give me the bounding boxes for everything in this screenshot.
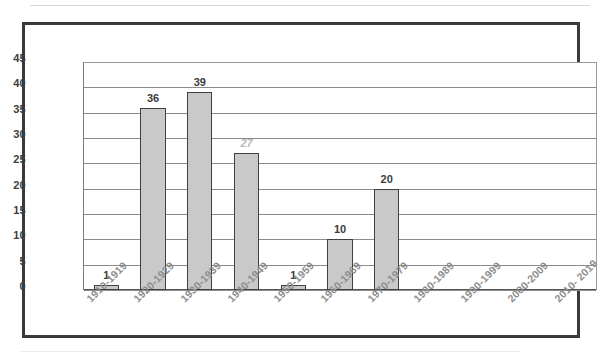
bar-series: 136392711020 (83, 62, 597, 290)
x-axis-tick-labels: 1910-19191920-19291930-19391940-19491950… (83, 290, 597, 357)
bar-value-label: 39 (180, 77, 220, 88)
y-axis-tick-label: 0 (0, 281, 26, 292)
y-axis-tick-label: 15 (0, 205, 26, 216)
y-axis-tick-label: 45 (0, 53, 26, 64)
y-axis-tick-label: 35 (0, 104, 26, 115)
y-axis-tick-label: 20 (0, 180, 26, 191)
bar (140, 108, 165, 290)
bar-value-label: 36 (133, 93, 173, 104)
bar-value-label: 10 (320, 224, 360, 235)
bar (187, 92, 212, 290)
bar-value-label: 20 (367, 174, 407, 185)
y-axis-tick-label: 40 (0, 78, 26, 89)
chart-page: 454035302520151050 136392711020 1910-191… (0, 0, 602, 357)
bar-value-label: 27 (227, 138, 267, 149)
y-axis-tick-label: 30 (0, 129, 26, 140)
chart-outer-frame: 454035302520151050 136392711020 1910-191… (22, 22, 580, 338)
y-axis-tick-label: 25 (0, 154, 26, 165)
scan-artifact-line-top (30, 5, 590, 6)
y-axis-tick-label: 5 (0, 256, 26, 267)
y-axis-tick-label: 10 (0, 230, 26, 241)
